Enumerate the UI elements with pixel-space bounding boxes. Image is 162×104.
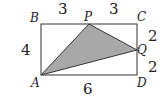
vertex-label-d: D xyxy=(136,76,147,90)
vertex-label-q: Q xyxy=(137,43,147,57)
length-cq: 2 xyxy=(148,27,158,45)
length-ab: 4 xyxy=(21,41,31,59)
length-pc: 3 xyxy=(109,0,119,18)
vertex-label-b: B xyxy=(29,11,39,25)
vertex-label-p: P xyxy=(83,10,93,24)
vertex-label-a: A xyxy=(30,76,40,90)
length-ad: 6 xyxy=(83,80,93,98)
geometry-diagram: B P C Q A D 3 3 4 2 2 6 xyxy=(0,0,162,104)
shaded-triangle-apq xyxy=(41,24,137,75)
length-bp: 3 xyxy=(58,0,68,18)
vertex-label-c: C xyxy=(137,10,146,24)
length-qd: 2 xyxy=(148,58,158,76)
